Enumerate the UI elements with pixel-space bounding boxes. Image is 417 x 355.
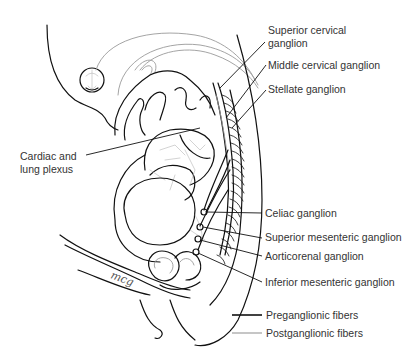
label-superior-cervical-line2: ganglion [268,37,346,50]
legend-postganglionic-label: Postganglionic fibers [266,327,363,340]
label-cardiac-lung-line1: Cardiac and [20,150,77,163]
artist-signature: mcg [109,269,136,289]
head-postganglionic-fibers [96,33,258,95]
label-cardiac-lung-line2: lung plexus [20,163,77,176]
head-outline [47,25,118,130]
brain-outline [115,71,215,140]
label-superior-cervical-ganglion: Superior cervical ganglion [268,24,346,50]
legend-preganglionic-label: Preganglionic fibers [266,309,358,322]
label-inferior-mesenteric-ganglion: Inferior mesenteric ganglion [265,276,395,289]
label-cardiac-lung-plexus: Cardiac and lung plexus [20,150,77,176]
label-stellate-ganglion: Stellate ganglion [268,83,346,96]
anatomical-diagram: mcg [0,0,417,355]
label-aorticorenal-ganglion: Aorticorenal ganglion [265,250,364,263]
label-superior-mesenteric-ganglion: Superior mesenteric ganglion [265,231,402,244]
label-superior-cervical-line1: Superior cervical [268,24,346,37]
label-middle-cervical-ganglion: Middle cervical ganglion [268,59,380,72]
heart-lungs [144,129,214,200]
label-celiac-ganglion: Celiac ganglion [265,207,337,220]
preganglionic-fiber-paths [198,150,230,250]
